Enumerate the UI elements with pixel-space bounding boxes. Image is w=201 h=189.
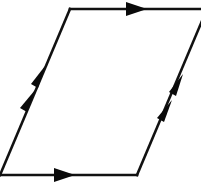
bottom-edge-arrow-icon xyxy=(54,168,75,182)
left-edge-arrow-upper-icon xyxy=(31,66,45,88)
parallelogram-diagram xyxy=(0,0,201,189)
right-edge-arrow-lower-icon xyxy=(157,100,172,122)
left-edge-arrow-lower-icon xyxy=(20,90,35,112)
left-edge xyxy=(0,9,70,175)
right-edge-arrow-upper-icon xyxy=(169,74,183,96)
top-edge-arrow-icon xyxy=(126,2,147,16)
left-edge-double-arrow-icon xyxy=(20,66,45,112)
